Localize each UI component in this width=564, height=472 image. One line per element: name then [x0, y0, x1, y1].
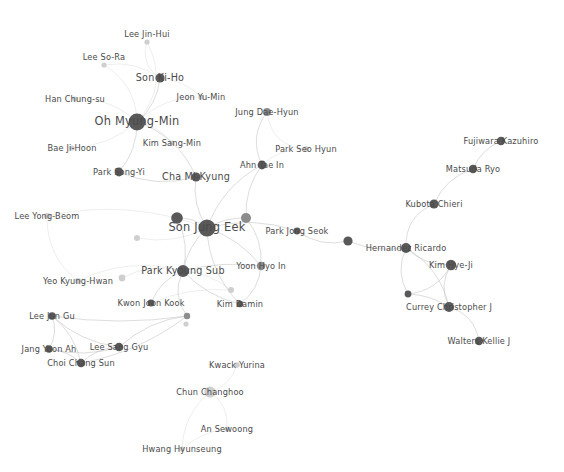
graph-node-label-lee-jun-gu: Lee Jun Gu [29, 312, 75, 320]
graph-node-label-park-jong-seok: Park Jong Seok [266, 227, 329, 235]
graph-node-label-fujiwara-kazuhiro: Fujiwara Kazuhiro [464, 137, 539, 145]
graph-node-label-bae-ji-hoon: Bae Ji-Hoon [47, 144, 96, 152]
graph-node-label-kwack-yurina: Kwack Yurina [209, 361, 265, 369]
graph-edge [182, 392, 210, 449]
graph-node-label-son-ki-ho: Son Ki-Ho [136, 73, 184, 83]
graph-edge [256, 112, 267, 165]
graph-node-label-oh-myung-min: Oh Myung-Min [94, 116, 179, 127]
graph-node-label-currey-christopher-j: Currey Christopher J [406, 303, 492, 311]
graph-node-lee-jin-hui[interactable] [144, 39, 149, 44]
graph-node-label-kim-hye-ji: Kim Hye-Ji [429, 261, 473, 269]
graph-node-label-kim-damin: Kim Damin [217, 300, 263, 308]
network-graph-canvas: Lee Jin-HuiLee So-RaSon Ki-HoHan Chung-s… [0, 0, 564, 472]
graph-node-node-unlabeled-e[interactable] [119, 275, 126, 282]
graph-node-label-jang-yoon-ah: Jang Yoon Ah [22, 345, 77, 353]
graph-node-label-park-kyoung-sub: Park Kyoung Sub [141, 266, 224, 276]
graph-node-label-kwon-joon-kook: Kwon Joon Kook [117, 299, 184, 307]
graph-node-label-kim-sang-min: Kim Sang-Min [143, 139, 201, 147]
graph-node-label-lee-sang-gyu: Lee Sang Gyu [90, 343, 149, 351]
graph-svg-layer [0, 0, 564, 472]
graph-node-node-unlabeled-i[interactable] [183, 321, 188, 326]
graph-edge [137, 122, 196, 177]
graph-node-label-lee-so-ra: Lee So-Ra [83, 53, 125, 61]
graph-node-node-unlabeled-c[interactable] [134, 235, 140, 241]
graph-edge [406, 204, 434, 248]
graph-edge [246, 218, 261, 266]
graph-node-label-park-seo-hyun: Park Seo Hyun [275, 145, 337, 153]
graph-node-node-unlabeled-h[interactable] [184, 313, 190, 319]
graph-node-label-yeo-kyung-hwan: Yeo Kyung-Hwan [43, 277, 113, 285]
graph-node-label-han-chung-su: Han Chung-su [45, 95, 105, 103]
graph-node-label-hernandez-ricardo: Hernandez Ricardo [366, 244, 447, 252]
graph-node-label-chun-changhoo: Chun Changhoo [176, 388, 244, 396]
graph-node-lee-so-ra[interactable] [101, 62, 106, 67]
graph-node-label-hwang-hyunseung: Hwang Hyunseung [142, 445, 222, 453]
graph-node-node-unlabeled-g[interactable] [405, 291, 412, 298]
graph-edge [47, 216, 78, 281]
graph-node-label-ahn-tae-in: Ahn Tae In [240, 161, 284, 169]
graph-node-label-park-song-yi: Park Song-Yi [93, 168, 145, 176]
graph-node-node-unlabeled-f[interactable] [228, 287, 234, 293]
graph-node-label-lee-yong-beom: Lee Yong-Beom [15, 212, 80, 220]
graph-node-label-kubota-chieri: Kubota Chieri [405, 200, 462, 208]
graph-node-label-jeon-yu-min: Jeon Yu-Min [177, 93, 226, 101]
graph-edge [81, 316, 187, 363]
graph-node-label-an-sewoong: An Sewoong [201, 425, 253, 433]
graph-node-label-jung-dae-hyun: Jung Dae-Hyun [235, 108, 298, 116]
graph-node-label-lee-jin-hui: Lee Jin-Hui [124, 30, 169, 38]
graph-node-label-choi-chang-sun: Choi Chang Sun [47, 359, 115, 367]
graph-node-label-matsuda-ryo: Matsuda Ryo [446, 165, 500, 173]
graph-edge [52, 316, 81, 363]
graph-node-label-son-jung-eek: Son Jung Eek [168, 222, 245, 233]
graph-node-label-yoon-hyo-in: Yoon Hyo In [236, 262, 286, 270]
graph-node-node-unlabeled-d[interactable] [343, 236, 352, 245]
graph-node-label-cha-mi-kyung: Cha Mi-Kyung [162, 172, 230, 182]
graph-edge [401, 248, 408, 294]
graph-node-label-walters-kellie-j: Walters Kellie J [448, 337, 511, 345]
